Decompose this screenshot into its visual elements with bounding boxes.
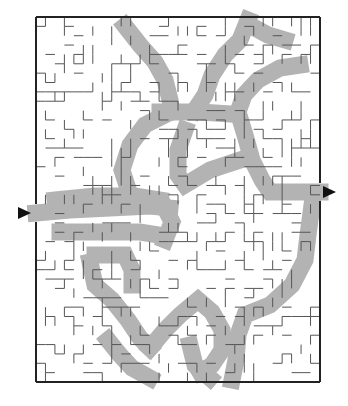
maze-canvas	[0, 0, 348, 406]
maze-puzzle	[0, 0, 348, 406]
exit-arrow-icon	[323, 186, 336, 198]
